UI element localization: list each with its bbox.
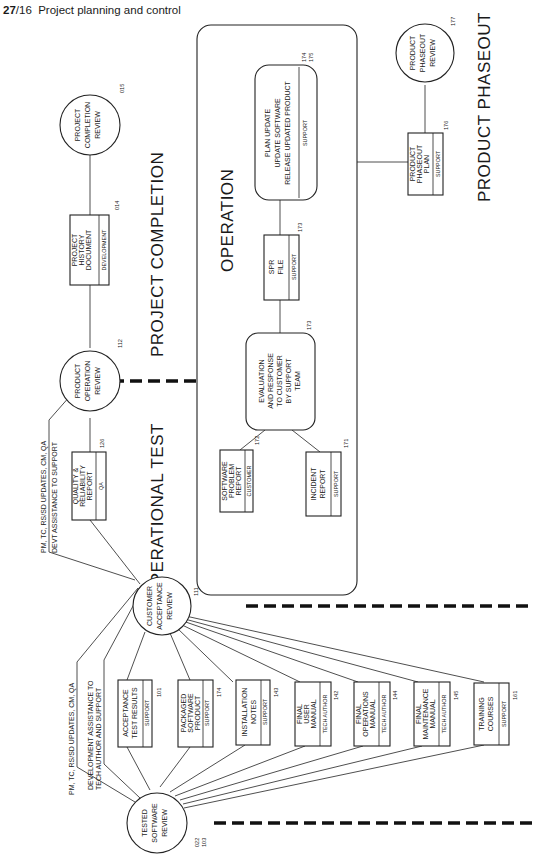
- svg-text:173: 173: [306, 321, 312, 330]
- svg-text:TECH AUTHOR: TECH AUTHOR: [441, 695, 447, 734]
- svg-text:SOFTWARE: SOFTWARE: [221, 461, 228, 501]
- svg-text:FINAL: FINAL: [415, 704, 422, 724]
- svg-text:SOFTWARE: SOFTWARE: [151, 803, 158, 843]
- svg-text:PACKAGED: PACKAGED: [180, 694, 187, 732]
- product-phaseout-plan: PRODUCT PHASEOUT PLAN SUPPORT 176: [408, 121, 449, 195]
- svg-text:HISTORY: HISTORY: [78, 234, 85, 265]
- svg-text:TECH AUTHOR: TECH AUTHOR: [322, 695, 328, 734]
- svg-text:PLAN: PLAN: [423, 155, 430, 173]
- svg-text:PRODUCT: PRODUCT: [409, 146, 416, 181]
- phase-label-operational-test: OPERATIONAL TEST: [148, 423, 167, 598]
- svg-text:175: 175: [308, 53, 314, 62]
- svg-text:176: 176: [443, 121, 449, 130]
- svg-text:PLAN UPDATE: PLAN UPDATE: [264, 109, 271, 157]
- svg-text:PRODUCT: PRODUCT: [74, 363, 81, 398]
- svg-text:CUSTOMER: CUSTOMER: [246, 466, 252, 497]
- svg-text:OPERATION: OPERATION: [84, 361, 91, 402]
- review-code: 112: [117, 339, 123, 348]
- svg-text:172: 172: [254, 436, 260, 445]
- svg-text:REVIEW: REVIEW: [94, 111, 101, 139]
- svg-text:REVIEW: REVIEW: [94, 367, 101, 395]
- svg-text:COURSES: COURSES: [487, 696, 494, 731]
- note-dev-assistance-line2: TECH AUTHOR AND SUPPORT: [95, 687, 102, 790]
- svg-text:EVALUATION: EVALUATION: [258, 359, 265, 402]
- svg-text:UPDATE SOFTWARE: UPDATE SOFTWARE: [274, 98, 281, 168]
- svg-text:SOFTWARE: SOFTWARE: [187, 693, 194, 733]
- evaluation-response-node: EVALUATION AND RESPONSE TO CUSTOMER BY S…: [246, 321, 315, 430]
- svg-text:CUSTOMER: CUSTOMER: [146, 586, 153, 626]
- svg-text:126: 126: [99, 439, 105, 448]
- product-phaseout-review-node: PRODUCT PHASEOUT REVIEW 177: [396, 17, 456, 82]
- project-history-document: PROJECT HISTORY DOCUMENT DEVELOPMENT 014: [70, 201, 120, 285]
- plan-update-node: PLAN UPDATE UPDATE SOFTWARE RELEASE UPDA…: [255, 53, 317, 200]
- svg-text:144: 144: [392, 691, 398, 700]
- svg-text:ACCEPTANCE: ACCEPTANCE: [156, 582, 163, 630]
- deliverable-training-courses: TRAINING COURSES SUPPORT 161: [474, 683, 518, 745]
- review-code: 111: [193, 587, 199, 596]
- svg-text:TESTED: TESTED: [141, 809, 148, 837]
- review-code: 103: [201, 838, 207, 847]
- note-devt-assistance-support: DEVT ASSISTANCE TO SUPPORT: [51, 441, 58, 553]
- svg-text:MANUAL: MANUAL: [369, 699, 376, 728]
- svg-text:SUPPORT: SUPPORT: [144, 699, 150, 726]
- svg-text:143: 143: [273, 688, 279, 697]
- svg-text:PRODUCT: PRODUCT: [409, 35, 416, 70]
- review-code: 015: [119, 84, 125, 93]
- tested-software-review-node: TESTED SOFTWARE REVIEW 022 103: [127, 793, 207, 853]
- svg-text:101: 101: [156, 688, 162, 697]
- svg-text:TECH AUTHOR: TECH AUTHOR: [381, 695, 387, 734]
- svg-text:TO CUSTOMER: TO CUSTOMER: [276, 355, 283, 406]
- phase-label-operation: OPERATION: [218, 169, 237, 272]
- svg-text:SUPPORT: SUPPORT: [204, 699, 210, 726]
- svg-text:MANUAL: MANUAL: [429, 699, 436, 728]
- svg-text:REVIEW: REVIEW: [161, 809, 168, 837]
- svg-text:PHASEOUT: PHASEOUT: [419, 33, 426, 72]
- svg-text:DOCUMENT: DOCUMENT: [85, 229, 92, 270]
- phase-label-project-completion: PROJECT COMPLETION: [148, 152, 167, 357]
- svg-text:ACCEPTANCE: ACCEPTANCE: [122, 689, 129, 737]
- product-operation-review-node: PRODUCT OPERATION REVIEW 112: [60, 339, 123, 411]
- svg-text:REPORT: REPORT: [235, 466, 242, 496]
- svg-text:SUPPORT: SUPPORT: [262, 698, 268, 725]
- svg-text:161: 161: [512, 691, 518, 700]
- svg-text:TEST RESULTS: TEST RESULTS: [131, 687, 138, 739]
- svg-text:TRAINING: TRAINING: [478, 697, 485, 730]
- deliverable-final-operations-manual: FINAL OPERATIONS MANUAL TECH AUTHOR 144: [354, 682, 398, 746]
- svg-text:PROJECT: PROJECT: [74, 108, 81, 141]
- svg-text:PHASEOUT: PHASEOUT: [416, 144, 423, 183]
- deliverable-final-maintenance-manual: FINAL MAINTENANCE MANUAL TECH AUTHOR 145: [414, 682, 459, 746]
- note-updates-acceptance: PM, TC, RS/SD UPDATES, CM, QA: [40, 441, 48, 553]
- review-code: 177: [450, 17, 456, 26]
- svg-text:COMPLETION: COMPLETION: [84, 102, 91, 148]
- svg-text:AND RESPONSE: AND RESPONSE: [267, 353, 274, 409]
- svg-text:INSTALLATION: INSTALLATION: [241, 688, 248, 737]
- svg-text:PROBLEM: PROBLEM: [228, 464, 235, 498]
- note-updates-tested: PM, TC, RS/SD UPDATES, CM, QA: [68, 683, 76, 795]
- svg-text:173: 173: [297, 223, 303, 232]
- deliverable-final-user-manual: FINAL USER MANUAL TECH AUTHOR 142: [295, 682, 339, 746]
- deliverable-acceptance-test-results: ACCEPTANCE TEST RESULTS SUPPORT 101: [118, 680, 162, 747]
- review-code: 022: [194, 838, 200, 847]
- svg-text:OPERATIONS: OPERATIONS: [362, 691, 369, 737]
- svg-text:FINAL: FINAL: [355, 704, 362, 724]
- svg-text:QA: QA: [98, 482, 104, 490]
- spr-file: SPR FILE SUPPORT 173: [264, 223, 303, 300]
- svg-text:PROJECT: PROJECT: [71, 233, 78, 266]
- svg-text:RELIABILITY: RELIABILITY: [79, 465, 86, 507]
- svg-text:MAINTENANCE: MAINTENANCE: [422, 688, 429, 739]
- svg-text:FINAL: FINAL: [296, 704, 303, 724]
- customer-acceptance-review-node: CUSTOMER ACCEPTANCE REVIEW 111: [133, 577, 199, 635]
- svg-text:TEAM: TEAM: [294, 371, 301, 391]
- svg-text:174: 174: [216, 688, 222, 697]
- svg-text:142: 142: [333, 691, 339, 700]
- svg-text:MANUAL: MANUAL: [310, 699, 317, 728]
- svg-text:USER: USER: [303, 704, 310, 723]
- svg-text:NOTES: NOTES: [250, 700, 257, 724]
- note-dev-assistance-line1: DEVELOPMENT ASSISTANCE TO: [87, 680, 94, 790]
- svg-text:REPORT: REPORT: [86, 471, 93, 501]
- svg-text:SPR: SPR: [268, 260, 275, 274]
- svg-text:SUPPORT: SUPPORT: [302, 119, 308, 146]
- svg-text:SUPPORT: SUPPORT: [501, 700, 507, 727]
- phase-label-product-phaseout: PRODUCT PHASEOUT: [475, 12, 494, 202]
- svg-text:174: 174: [301, 53, 307, 62]
